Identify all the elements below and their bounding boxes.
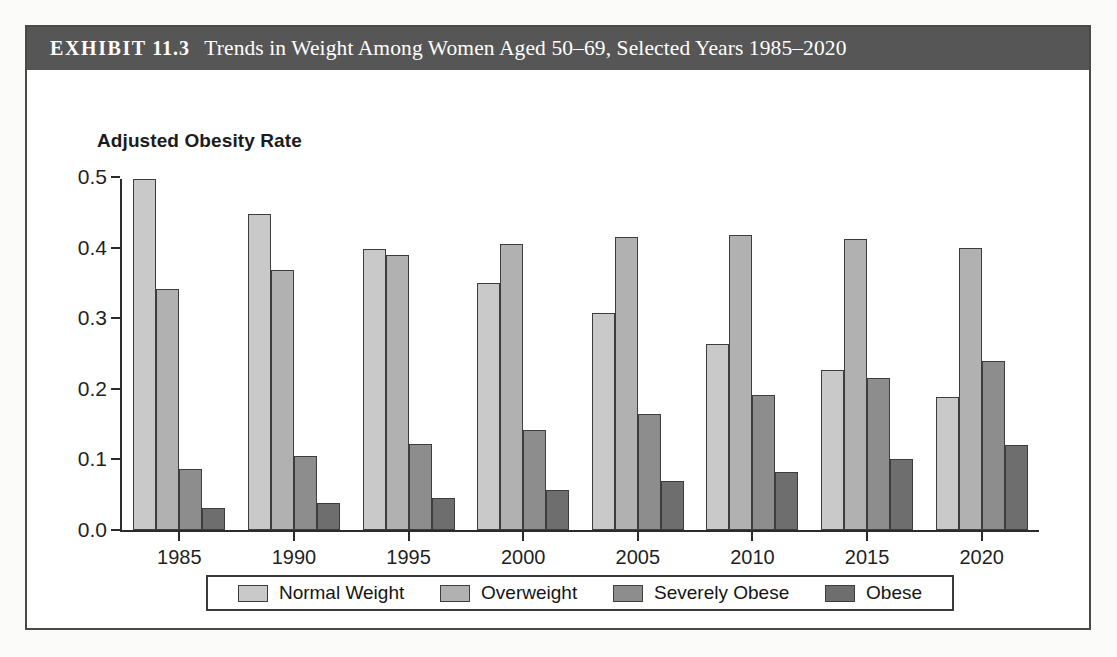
bar-2015-severely-obese bbox=[867, 378, 890, 530]
y-axis-tick bbox=[111, 529, 120, 531]
chart-legend: Normal WeightOverweightSeverely ObeseObe… bbox=[206, 575, 954, 611]
bar-1985-overweight bbox=[156, 289, 179, 530]
y-axis-tick bbox=[111, 247, 120, 249]
legend-swatch-icon bbox=[440, 585, 470, 602]
bar-2000-obese bbox=[546, 490, 569, 530]
y-axis-tick-label: 0.2 bbox=[78, 377, 107, 401]
x-axis-tick bbox=[751, 532, 753, 541]
exhibit-frame: EXHIBIT 11.3 Trends in Weight Among Wome… bbox=[25, 25, 1091, 630]
y-axis-tick-label: 0.1 bbox=[78, 447, 107, 471]
bar-2015-overweight bbox=[844, 239, 867, 530]
x-axis-tick bbox=[981, 532, 983, 541]
bar-1990-normal-weight bbox=[248, 214, 271, 530]
x-axis-tick bbox=[293, 532, 295, 541]
bar-2005-obese bbox=[661, 481, 684, 530]
bar-2005-normal-weight bbox=[592, 313, 615, 530]
bar-1985-normal-weight bbox=[133, 179, 156, 530]
x-axis-line bbox=[120, 530, 1039, 532]
exhibit-number: 11.3 bbox=[152, 37, 190, 59]
x-axis-tick-label: 2020 bbox=[959, 546, 1004, 569]
y-axis-tick-label: 0.3 bbox=[78, 306, 107, 330]
x-axis-tick-label: 2005 bbox=[616, 546, 661, 569]
plot-area: 0.00.10.20.30.40.5 198519901995200020052… bbox=[120, 170, 1039, 532]
legend-swatch-icon bbox=[825, 585, 855, 602]
exhibit-label: EXHIBIT bbox=[50, 37, 147, 59]
bar-2010-severely-obese bbox=[752, 395, 775, 530]
bar-2005-severely-obese bbox=[638, 414, 661, 530]
bar-1990-obese bbox=[317, 503, 340, 530]
legend-swatch-icon bbox=[238, 585, 268, 602]
y-axis-tick bbox=[111, 388, 120, 390]
x-axis-tick bbox=[866, 532, 868, 541]
legend-item-normal-weight[interactable]: Normal Weight bbox=[238, 582, 404, 604]
legend-label: Obese bbox=[866, 582, 922, 604]
y-axis-tick-label: 0.5 bbox=[78, 165, 107, 189]
bar-2020-severely-obese bbox=[982, 361, 1005, 530]
x-axis-tick bbox=[178, 532, 180, 541]
bar-2010-overweight bbox=[729, 235, 752, 530]
exhibit-title-bar: EXHIBIT 11.3 Trends in Weight Among Wome… bbox=[27, 27, 1089, 70]
legend-item-obese[interactable]: Obese bbox=[825, 582, 922, 604]
bars-layer bbox=[122, 170, 1039, 530]
bar-2010-obese bbox=[775, 472, 798, 530]
bar-2000-overweight bbox=[500, 244, 523, 530]
bar-2000-normal-weight bbox=[477, 283, 500, 530]
legend-label: Normal Weight bbox=[279, 582, 404, 604]
x-axis-tick-label: 1985 bbox=[157, 546, 202, 569]
y-axis-tick-label: 0.0 bbox=[78, 518, 107, 542]
bar-2015-obese bbox=[890, 459, 913, 530]
bar-1990-overweight bbox=[271, 270, 294, 530]
x-axis-tick-label: 1990 bbox=[272, 546, 317, 569]
bar-1995-overweight bbox=[386, 255, 409, 530]
bar-2020-overweight bbox=[959, 248, 982, 530]
y-axis-tick bbox=[111, 176, 120, 178]
bar-2000-severely-obese bbox=[523, 430, 546, 530]
bar-1995-normal-weight bbox=[363, 249, 386, 530]
bar-2020-obese bbox=[1005, 445, 1028, 530]
chart-body: Adjusted Obesity Rate 0.00.10.20.30.40.5… bbox=[27, 70, 1089, 628]
bar-1990-severely-obese bbox=[294, 456, 317, 530]
x-axis-tick bbox=[408, 532, 410, 541]
bar-1985-severely-obese bbox=[179, 469, 202, 530]
exhibit-page: { "exhibit": { "label": "EXHIBIT", "numb… bbox=[0, 0, 1117, 657]
bar-2005-overweight bbox=[615, 237, 638, 530]
x-axis-tick bbox=[637, 532, 639, 541]
bar-2020-normal-weight bbox=[936, 397, 959, 530]
x-axis-tick-label: 2010 bbox=[730, 546, 775, 569]
x-axis-tick-label: 2015 bbox=[845, 546, 890, 569]
x-axis-tick bbox=[522, 532, 524, 541]
legend-swatch-icon bbox=[613, 585, 643, 602]
x-axis-tick-label: 2000 bbox=[501, 546, 546, 569]
bar-1995-obese bbox=[432, 498, 455, 530]
y-axis-tick bbox=[111, 458, 120, 460]
y-axis-tick bbox=[111, 317, 120, 319]
legend-item-severely-obese[interactable]: Severely Obese bbox=[613, 582, 789, 604]
exhibit-title: EXHIBIT 11.3 Trends in Weight Among Wome… bbox=[27, 36, 847, 61]
bar-2015-normal-weight bbox=[821, 370, 844, 530]
legend-label: Overweight bbox=[481, 582, 577, 604]
x-axis-tick-label: 1995 bbox=[386, 546, 431, 569]
y-axis-tick-label: 0.4 bbox=[78, 236, 107, 260]
legend-label: Severely Obese bbox=[654, 582, 789, 604]
bar-1995-severely-obese bbox=[409, 444, 432, 530]
bar-2010-normal-weight bbox=[706, 344, 729, 530]
bar-1985-obese bbox=[202, 508, 225, 530]
chart-axis-title: Adjusted Obesity Rate bbox=[97, 130, 302, 152]
legend-item-overweight[interactable]: Overweight bbox=[440, 582, 577, 604]
exhibit-title-text: Trends in Weight Among Women Aged 50–69,… bbox=[204, 36, 846, 60]
